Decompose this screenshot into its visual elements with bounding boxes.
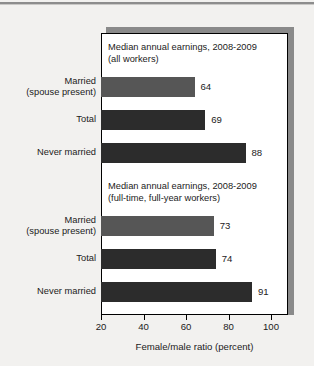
group-caption-line-2: (full-time, full-year workers) [108, 193, 288, 205]
x-axis-tick-label: 40 [129, 321, 159, 332]
category-label-line-2: (spouse present) [0, 87, 96, 98]
category-label-line-1: Married [0, 76, 96, 87]
group-caption-line-1: Median annual earnings, 2008-2009 [108, 42, 288, 54]
category-label-line-1: Total [0, 114, 96, 125]
x-axis-tick [186, 315, 187, 320]
page-top-rule-shadow [0, 4, 314, 5]
x-axis-tick [271, 315, 272, 320]
bar-value-label: 88 [252, 143, 263, 163]
group-caption-fulltime-workers: Median annual earnings, 2008-2009 (full-… [108, 181, 288, 204]
chart-figure: Median annual earnings, 2008-2009 (all w… [0, 0, 314, 366]
x-axis-tick [229, 315, 230, 320]
x-axis-title: Female/male ratio (percent) [101, 341, 288, 352]
bar-value-label: 74 [222, 249, 233, 269]
bar-value-label: 73 [220, 216, 231, 236]
x-axis-tick-label: 80 [214, 321, 244, 332]
bar [101, 216, 214, 236]
bar [101, 143, 246, 163]
category-label-line-2: (spouse present) [0, 226, 96, 237]
category-label-line-1: Total [0, 253, 96, 264]
group-caption-all-workers: Median annual earnings, 2008-2009 (all w… [108, 42, 288, 65]
bar [101, 110, 205, 130]
x-axis-tick [144, 315, 145, 320]
group-caption-line-2: (all workers) [108, 54, 288, 66]
x-axis-tick-label: 60 [171, 321, 201, 332]
group-caption-line-1: Median annual earnings, 2008-2009 [108, 181, 288, 193]
category-label: Total [0, 253, 96, 264]
bar-value-label: 64 [201, 77, 212, 97]
category-label: Married(spouse present) [0, 215, 96, 237]
bar [101, 282, 252, 302]
category-label-line-1: Never married [0, 286, 96, 297]
plot-panel [101, 33, 288, 315]
category-label: Total [0, 114, 96, 125]
x-axis-tick-label: 20 [86, 321, 116, 332]
bar-value-label: 91 [258, 282, 269, 302]
category-label: Never married [0, 147, 96, 158]
category-label-line-1: Never married [0, 147, 96, 158]
x-axis-tick [101, 315, 102, 320]
category-label: Never married [0, 286, 96, 297]
x-axis-tick-label: 100 [256, 321, 286, 332]
bar [101, 249, 216, 269]
bar-value-label: 69 [211, 110, 222, 130]
bar [101, 77, 195, 97]
category-label: Married(spouse present) [0, 76, 96, 98]
category-label-line-1: Married [0, 215, 96, 226]
x-axis-line [101, 314, 288, 315]
